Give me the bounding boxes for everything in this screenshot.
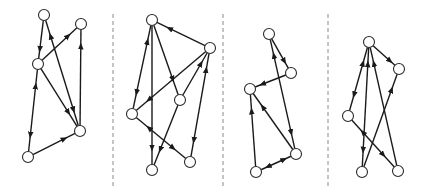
node-A [264, 29, 275, 40]
edge-B-F [191, 53, 209, 156]
edge-A-D [46, 20, 79, 125]
arrow-icon [73, 108, 74, 110]
arrow-icon [268, 166, 270, 167]
node-D [127, 109, 138, 120]
arrow-icon [160, 148, 161, 150]
graph-2 [127, 15, 216, 176]
panel-separators [113, 14, 328, 186]
edge-B-A [157, 22, 205, 45]
graph-1 [23, 10, 87, 163]
arrow-icon [51, 36, 52, 38]
node-D [75, 126, 86, 137]
arrow-icon [283, 60, 284, 62]
node-A [39, 10, 50, 21]
node-A [364, 37, 375, 48]
edge-B-C [255, 75, 286, 87]
arrow-icon [263, 107, 264, 109]
node-B [286, 68, 297, 79]
edge-A-D [362, 47, 368, 166]
arrow-icon [382, 153, 383, 154]
node-D [357, 167, 368, 178]
edge-C-D [41, 69, 77, 127]
node-C [33, 59, 44, 70]
node-D [291, 149, 302, 160]
edge-C-E [29, 69, 38, 151]
edge-D-C [253, 93, 293, 149]
node-B [394, 64, 405, 75]
edge-D-B [364, 74, 397, 167]
node-E [147, 165, 158, 176]
directed-graphs-figure [0, 0, 429, 189]
arrow-icon [169, 28, 171, 29]
arrow-icon [391, 90, 392, 92]
arrow-icon [200, 64, 201, 66]
node-C [343, 111, 354, 122]
edge-B-D [136, 52, 206, 111]
node-B [205, 43, 216, 54]
node-E [251, 167, 262, 178]
edge-A-B [373, 46, 395, 66]
node-E [23, 152, 34, 163]
edge-E-C [250, 94, 255, 166]
arrow-icon [282, 159, 284, 160]
edge-A-D [270, 39, 295, 148]
node-C [245, 84, 256, 95]
edge-D-B [80, 29, 81, 125]
node-E [393, 166, 404, 177]
edge-C-B [183, 53, 208, 95]
node-A [147, 15, 158, 26]
arrow-icon [67, 36, 68, 37]
arrow-icon [67, 111, 68, 113]
edge-E-D [33, 133, 75, 154]
edge-A-C [39, 20, 44, 58]
arrow-icon [262, 83, 264, 84]
arrow-icon [149, 98, 151, 99]
edge-E-D [261, 156, 291, 169]
node-F [185, 157, 196, 168]
edge-A-D [133, 25, 151, 108]
edge-A-C [350, 47, 368, 110]
arrow-icon [63, 139, 65, 140]
node-C [175, 95, 186, 106]
arrow-icon [172, 147, 174, 148]
arrow-icon [389, 60, 390, 61]
graph-panels [23, 10, 405, 178]
arrow-icon [149, 128, 151, 129]
graph-4 [343, 37, 405, 178]
arrow-icon [363, 132, 364, 133]
graph-3 [245, 29, 302, 178]
node-B [76, 19, 87, 30]
arrow-icon [354, 93, 355, 95]
edge-C-B [42, 28, 77, 61]
arrow-icon [362, 63, 363, 65]
edge-D-F [136, 118, 186, 159]
edge-A-B [272, 39, 289, 68]
edge-E-A [370, 47, 397, 165]
